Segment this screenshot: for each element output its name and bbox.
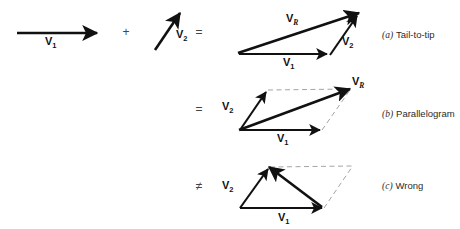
figure-canvas: V1 + V2 = VR V2: [0, 0, 460, 229]
panel-c-v2-arrow: [240, 169, 268, 208]
panel-c-v2-label: V2: [222, 179, 234, 194]
source-vector-v2: V2: [155, 13, 188, 50]
panel-b-dashed-right: [322, 90, 350, 130]
plus-operator: +: [122, 25, 129, 39]
panel-c-dashed-top: [270, 166, 352, 167]
panel-b-v1-label: V1: [277, 132, 289, 147]
panel-a-vr-label: VR: [286, 12, 298, 27]
panel-c-caption: (c)Wrong: [382, 180, 423, 192]
vector-addition-figure: V1 + V2 = VR V2: [0, 0, 460, 229]
panel-a-tail-to-tip: VR V2 V1 (a)Tail-to-tip: [238, 12, 435, 71]
equals-operator-middle: =: [195, 102, 202, 116]
v1-source-label: V1: [45, 35, 57, 50]
panel-c-wrong-resultant-arrow: [269, 167, 322, 207]
v2-source-label: V2: [176, 28, 188, 43]
panel-a-v1-label: V1: [283, 56, 295, 71]
panel-a-caption: (a)Tail-to-tip: [382, 29, 435, 41]
panel-b-vr-arrow: [239, 89, 350, 130]
equals-operator-top: =: [195, 25, 202, 39]
source-vector-v1: V1: [17, 33, 97, 50]
panel-c-wrong: V2 V1 (c)Wrong: [222, 166, 423, 226]
panel-b-parallelogram: V2 V1 VR (b)Parallelogram: [222, 75, 455, 147]
panel-a-v2-label: V2: [342, 35, 354, 50]
panel-b-v2-label: V2: [222, 100, 234, 115]
panel-b-vr-label: VR: [352, 75, 364, 90]
panel-c-dashed-right: [324, 167, 352, 208]
panel-b-caption: (b)Parallelogram: [382, 108, 455, 120]
panel-a-vr-arrow: [238, 13, 359, 53]
panel-b-dashed-top: [268, 89, 350, 90]
not-equals-operator-bottom: ≠: [196, 179, 203, 193]
panel-c-v1-label: V1: [278, 211, 290, 226]
